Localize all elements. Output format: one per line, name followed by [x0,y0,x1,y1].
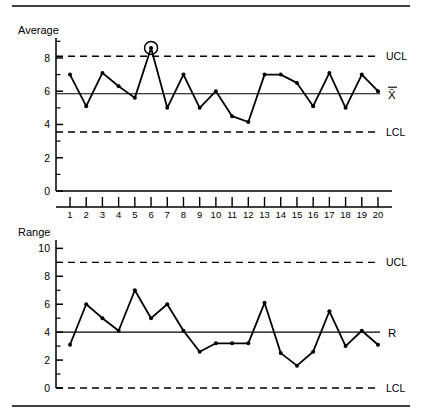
range-y-ticks [56,248,63,388]
sample-number-axis: 1234567891011121314151617181920 [56,197,392,220]
y-tick-label: 10 [38,242,50,254]
sample-axis-ticks [70,197,378,207]
sample-label-9: 9 [197,209,202,220]
data-point-3 [100,316,104,320]
xbar-lcl-label: LCL [386,126,405,138]
sample-label-11: 11 [227,209,237,220]
data-point-5 [133,96,137,100]
range-data-line [70,290,378,365]
data-point-16 [311,350,315,354]
data-point-17 [327,71,331,75]
sample-label-12: 12 [243,209,254,220]
data-point-13 [263,73,267,77]
xbar-y-tick-labels: 02468 [44,52,50,197]
data-point-6 [149,316,153,320]
data-point-14 [279,73,283,77]
range-control-chart: Range 0246810 UCL R LCL [18,226,407,394]
data-point-20 [376,89,380,93]
sample-label-5: 5 [132,209,137,220]
data-point-2 [84,104,88,108]
sample-label-7: 7 [165,209,170,220]
y-tick-label: 2 [44,152,50,164]
data-point-18 [344,344,348,348]
xbar-y-ticks [56,41,63,191]
y-tick-label: 6 [44,298,50,310]
data-point-8 [181,73,185,77]
data-point-12 [246,120,250,124]
data-point-9 [198,350,202,354]
data-point-7 [165,302,169,306]
data-point-15 [295,81,299,85]
sample-label-6: 6 [148,209,153,220]
y-tick-label: 8 [44,270,50,282]
xbar-axis-title: Average [18,24,59,36]
range-center-label: R [388,327,396,339]
xbar-data-markers [68,46,380,124]
data-point-20 [376,343,380,347]
data-point-19 [360,329,364,333]
xbar-data-line [70,48,378,122]
data-point-17 [327,309,331,313]
data-point-19 [360,73,364,77]
sample-label-13: 13 [259,209,270,220]
data-point-4 [117,329,121,333]
y-tick-label: 2 [44,354,50,366]
data-point-6 [149,46,153,50]
range-lcl-label: LCL [386,382,405,394]
data-point-8 [181,329,185,333]
data-point-13 [263,301,267,305]
y-tick-label: 6 [44,85,50,97]
data-point-1 [68,73,72,77]
data-point-18 [344,106,348,110]
xbar-center-label: X̄ [388,89,396,101]
sample-label-2: 2 [84,209,89,220]
y-tick-label: 8 [44,52,50,64]
data-point-4 [117,84,121,88]
data-point-10 [214,341,218,345]
range-ucl-label: UCL [386,256,407,268]
data-point-3 [100,71,104,75]
sample-label-1: 1 [67,209,72,220]
sample-label-18: 18 [340,209,351,220]
sample-label-17: 17 [324,209,335,220]
sample-label-3: 3 [100,209,105,220]
sample-label-15: 15 [292,209,303,220]
sample-label-10: 10 [211,209,222,220]
sample-label-20: 20 [373,209,384,220]
data-point-15 [295,364,299,368]
data-point-11 [230,341,234,345]
range-axis-title: Range [18,226,50,238]
sample-label-16: 16 [308,209,319,220]
y-tick-label: 0 [44,382,50,394]
sample-label-19: 19 [357,209,368,220]
data-point-7 [165,106,169,110]
xbar-ucl-label: UCL [386,50,407,62]
data-point-11 [230,114,234,118]
y-tick-label: 4 [44,326,50,338]
data-point-5 [133,288,137,292]
data-point-9 [198,106,202,110]
average-control-chart: Average 02468 UCL X̄ LCL [18,24,407,197]
data-point-16 [311,104,315,108]
sample-label-4: 4 [116,209,121,220]
range-y-tick-labels: 0246810 [38,242,50,394]
y-tick-label: 4 [44,118,50,130]
data-point-1 [68,343,72,347]
data-point-12 [246,341,250,345]
control-chart-figure: Average 02468 UCL X̄ LCL 123456789101 [0,0,422,415]
sample-label-8: 8 [181,209,186,220]
y-tick-label: 0 [44,185,50,197]
control-chart-svg: Average 02468 UCL X̄ LCL 123456789101 [0,0,422,415]
sample-label-14: 14 [275,209,286,220]
data-point-14 [279,351,283,355]
data-point-2 [84,302,88,306]
data-point-10 [214,89,218,93]
sample-axis-labels: 1234567891011121314151617181920 [67,209,383,220]
